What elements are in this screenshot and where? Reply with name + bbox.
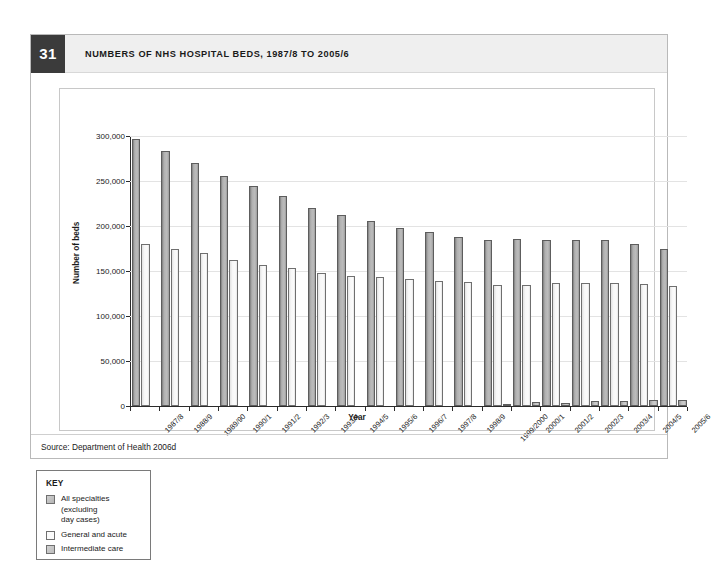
chart-legend: KEY All specialties (excluding day cases… (36, 470, 151, 560)
y-axis-tick-label: 200,000 (96, 222, 125, 231)
bar (572, 240, 580, 406)
x-axis-tick-mark (277, 407, 278, 411)
figure-header: 31 NUMBERS OF NHS HOSPITAL BEDS, 1987/8 … (31, 35, 667, 73)
bar-group (132, 136, 161, 406)
x-axis-tick-mark (658, 407, 659, 411)
legend-item-label: All specialties (excluding day cases) (61, 494, 109, 526)
bar (454, 237, 462, 406)
bar (464, 282, 472, 406)
bar (660, 249, 668, 406)
legend-swatch (46, 531, 55, 540)
y-axis-tick-mark (126, 181, 130, 182)
y-axis-tick-label: 0 (121, 402, 125, 411)
bar (591, 401, 599, 406)
bar-group (601, 136, 630, 406)
bar (191, 163, 199, 406)
bar (220, 176, 228, 406)
bar (308, 208, 316, 406)
bar (288, 268, 296, 406)
bar (132, 139, 140, 406)
bar (376, 277, 384, 406)
x-axis-tick-label: 2005/6 (690, 412, 713, 435)
x-axis-tick-mark (452, 407, 453, 411)
bar (513, 239, 521, 406)
y-axis-tick-label: 250,000 (96, 177, 125, 186)
legend-item: General and acute (46, 530, 150, 541)
bar-group (513, 136, 542, 406)
y-axis-tick-mark (126, 271, 130, 272)
y-axis-tick-label: 300,000 (96, 132, 125, 141)
bar (610, 283, 618, 406)
x-axis-tick-mark (306, 407, 307, 411)
bar (640, 284, 648, 406)
bar (347, 276, 355, 407)
bar (561, 403, 569, 406)
bar (522, 285, 530, 406)
y-axis-title: Number of beds (72, 222, 81, 284)
y-axis-tick-label: 100,000 (96, 312, 125, 321)
bar (601, 240, 609, 406)
x-axis-tick-mark (218, 407, 219, 411)
bar (581, 283, 589, 406)
y-axis-tick-mark (126, 136, 130, 137)
x-axis-tick-mark (247, 407, 248, 411)
bar-group (249, 136, 278, 406)
x-axis-tick-mark (570, 407, 571, 411)
bar (503, 404, 511, 406)
x-axis-tick-mark (482, 407, 483, 411)
bar (279, 196, 287, 406)
bar (620, 401, 628, 406)
x-axis-tick-mark (599, 407, 600, 411)
legend-items: All specialties (excluding day cases)Gen… (46, 494, 150, 555)
bar (337, 215, 345, 406)
bar (649, 400, 657, 406)
bar (367, 221, 375, 406)
bar (259, 265, 267, 406)
bar (161, 151, 169, 406)
bar-group (279, 136, 308, 406)
bar (669, 286, 677, 406)
bar-group (396, 136, 425, 406)
bar (396, 228, 404, 406)
legend-item-label: General and acute (61, 530, 127, 541)
bar (493, 285, 501, 407)
bar (249, 186, 257, 407)
bar-group (191, 136, 220, 406)
figure-container: 31 NUMBERS OF NHS HOSPITAL BEDS, 1987/8 … (30, 34, 668, 459)
legend-swatch (46, 545, 55, 554)
bar-group (308, 136, 337, 406)
bar (484, 240, 492, 407)
x-axis-tick-mark (130, 407, 131, 411)
bar (542, 240, 550, 406)
x-axis-tick-mark (540, 407, 541, 411)
legend-swatch (46, 495, 55, 504)
bar (405, 279, 413, 406)
x-axis-tick-mark (687, 407, 688, 411)
bar-group (220, 136, 249, 406)
bar (171, 249, 179, 406)
x-axis-line (130, 406, 687, 407)
figure-source-text: Source: Department of Health 2006d (41, 442, 176, 452)
bar (435, 281, 443, 406)
chart-plot-box: Number of beds Year 050,000100,000150,00… (59, 88, 655, 431)
x-axis-tick-mark (159, 407, 160, 411)
bar-group (425, 136, 454, 406)
bar (532, 402, 540, 406)
bar-group (367, 136, 396, 406)
bar (200, 253, 208, 406)
bar-group (454, 136, 483, 406)
bar (678, 400, 686, 406)
bar-group (542, 136, 571, 406)
bar-group (572, 136, 601, 406)
chart-plot-area: 050,000100,000150,000200,000250,000300,0… (130, 136, 687, 407)
y-axis-tick-label: 150,000 (96, 267, 125, 276)
bar (425, 232, 433, 406)
x-axis-tick-mark (365, 407, 366, 411)
x-axis-tick-mark (335, 407, 336, 411)
x-axis-tick-mark (394, 407, 395, 411)
y-axis-tick-mark (126, 361, 130, 362)
x-axis-tick-label: 2004/5 (661, 412, 684, 435)
y-axis-tick-mark (126, 226, 130, 227)
y-axis-tick-label: 50,000 (101, 357, 125, 366)
bar (317, 273, 325, 406)
